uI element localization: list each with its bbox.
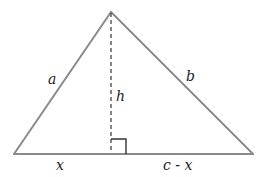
side-a: [14, 12, 111, 154]
side-b: [111, 12, 253, 154]
right-angle-marker: [111, 139, 126, 154]
label-a: a: [48, 71, 56, 87]
label-x: x: [56, 157, 64, 173]
label-h: h: [116, 88, 125, 104]
label-c-minus-x: c - x: [163, 157, 192, 173]
label-b: b: [186, 68, 195, 84]
triangle-diagram: a b h x c - x: [0, 0, 263, 177]
